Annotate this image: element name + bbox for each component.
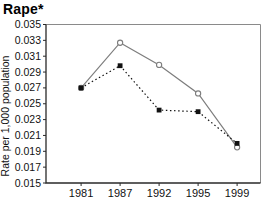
x-tick-label: 1981 (69, 187, 93, 199)
series-line-open-circle-solid (81, 43, 237, 148)
y-tick-label: 0.027 (15, 81, 41, 93)
y-tick-label: 0.021 (15, 129, 41, 141)
line-chart: 0.0150.0170.0190.0210.0230.0250.0270.029… (0, 0, 266, 202)
y-tick-label: 0.015 (15, 177, 41, 189)
y-tick-label: 0.031 (15, 50, 41, 62)
y-tick-label: 0.017 (15, 161, 41, 173)
marker-square-icon (157, 108, 162, 113)
y-tick-label: 0.023 (15, 113, 41, 125)
x-tick-label: 1992 (147, 187, 171, 199)
series-line-filled-square-dotted (81, 66, 237, 144)
marker-square-icon (79, 86, 84, 91)
y-axis-title: Rate per 1,000 population (0, 55, 11, 176)
chart-panel: Rape* 0.0150.0170.0190.0210.0230.0250.02… (0, 0, 266, 202)
y-tick-label: 0.033 (15, 34, 41, 46)
marker-circle-icon (118, 40, 123, 45)
x-tick-label: 1999 (225, 187, 249, 199)
y-tick-label: 0.035 (15, 18, 41, 30)
x-tick-label: 1987 (108, 187, 132, 199)
marker-circle-icon (196, 91, 201, 96)
marker-circle-icon (157, 62, 162, 67)
marker-square-icon (196, 109, 201, 114)
y-tick-label: 0.025 (15, 97, 41, 109)
x-tick-label: 1995 (186, 187, 210, 199)
y-tick-label: 0.029 (15, 66, 41, 78)
y-tick-label: 0.019 (15, 145, 41, 157)
marker-square-icon (235, 141, 240, 146)
marker-square-icon (118, 63, 123, 68)
